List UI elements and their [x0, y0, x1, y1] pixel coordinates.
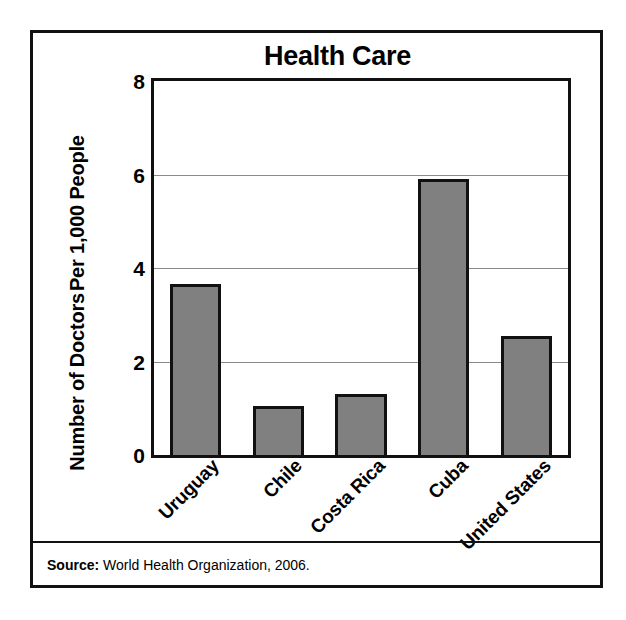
bar-series: [154, 81, 568, 455]
plot-area: 02468: [151, 78, 571, 458]
source-text: World Health Organization, 2006.: [99, 557, 310, 573]
y-tick-label: 2: [133, 351, 145, 372]
bar: [501, 336, 552, 455]
x-tick-label: Chile: [259, 455, 307, 503]
chart-figure: Health Care Number of Doctors Per 1,000 …: [30, 30, 603, 588]
y-tick-label: 0: [133, 445, 145, 466]
y-axis-title-line-1: Number of Doctors: [65, 293, 89, 471]
bar: [253, 406, 304, 455]
bar: [170, 284, 221, 455]
x-tick-label: Uruguay: [155, 455, 224, 524]
y-tick-label: 4: [133, 258, 145, 279]
chart-title: Health Care: [33, 41, 600, 72]
x-tick-label: Costa Rica: [306, 455, 390, 539]
bar: [418, 179, 469, 455]
source-label: Source:: [47, 557, 99, 573]
y-axis-title-line-2: Per 1,000 People: [65, 135, 89, 291]
y-axis-title: Number of Doctors Per 1,000 People: [50, 193, 104, 413]
x-tick-label: Cuba: [424, 455, 473, 504]
y-tick-label: 8: [133, 71, 145, 92]
bar: [335, 394, 386, 455]
y-tick-label: 6: [133, 164, 145, 185]
source-divider: [33, 541, 600, 543]
source-note: Source: World Health Organization, 2006.: [47, 557, 310, 573]
x-tick-labels: UruguayChileCosta RicaCubaUnited States: [151, 455, 565, 565]
